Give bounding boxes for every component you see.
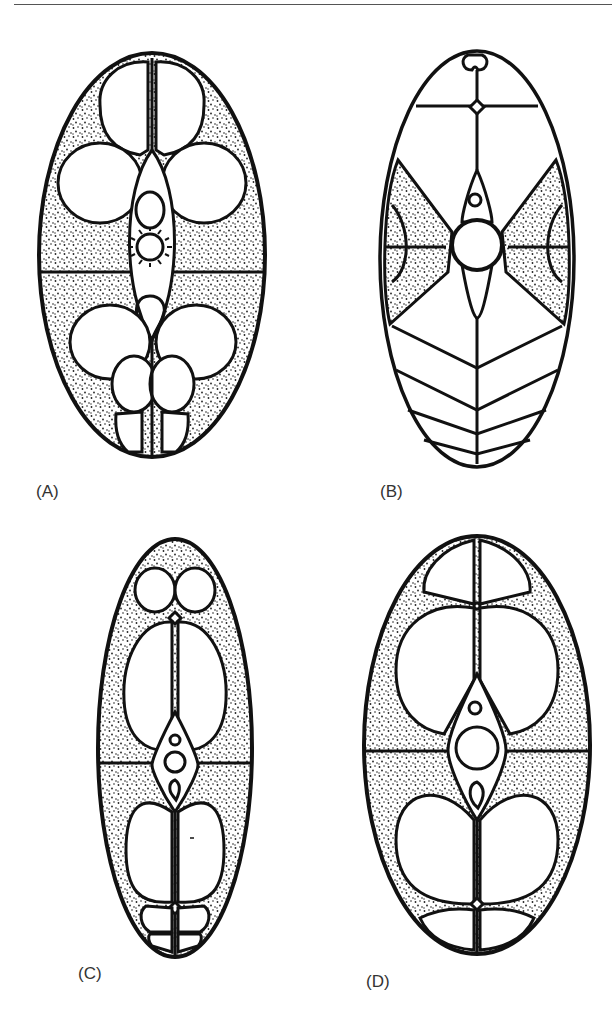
panel-label-a: (A)	[36, 482, 59, 502]
panel-d-diagram	[364, 536, 590, 954]
panel-label-c: (C)	[78, 964, 102, 984]
panel-a-diagram	[39, 53, 265, 457]
panel-b-diagram	[380, 51, 574, 467]
panel-label-b: (B)	[380, 482, 403, 502]
figure-canvas	[0, 0, 612, 1027]
panel-c-diagram	[98, 539, 252, 957]
panel-label-d: (D)	[366, 972, 390, 992]
